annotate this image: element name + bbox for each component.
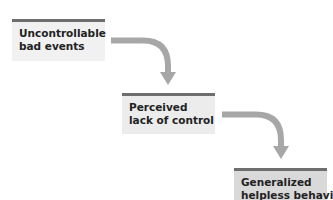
node-label-line: Perceived <box>129 101 209 114</box>
arrow-n2-to-n3 <box>222 115 289 160</box>
node-label-line: bad events <box>19 40 99 53</box>
node-label-line: helpless behavior <box>241 189 321 200</box>
node-perceived-lack-of-control: Perceived lack of control <box>122 93 215 134</box>
node-generalized-helpless-behavior: Generalized helpless behavior <box>234 168 327 200</box>
arrow-n1-to-n2 <box>111 41 176 86</box>
node-label-line: Generalized <box>241 176 321 189</box>
node-label-line: Uncontrollable <box>19 27 99 40</box>
node-label-line: lack of control <box>129 114 209 127</box>
node-uncontrollable-bad-events: Uncontrollable bad events <box>12 19 105 61</box>
